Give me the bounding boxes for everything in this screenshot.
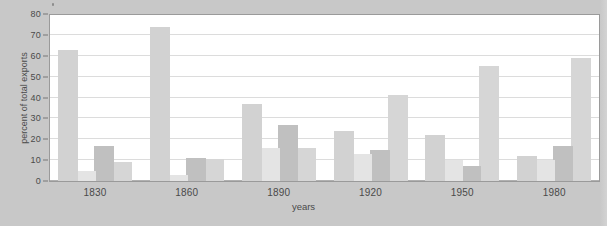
x-tick-label: 1980: [543, 187, 566, 198]
y-tick-label: 20: [31, 134, 41, 144]
bar: [388, 95, 408, 181]
bar: [186, 158, 206, 181]
x-tick-label: 1860: [175, 187, 198, 198]
bar: [571, 58, 591, 181]
chart-figure: 01020304050607080 percent of total expor…: [0, 0, 607, 226]
bar: [150, 27, 170, 181]
y-tick-mark: [43, 14, 48, 15]
x-axis-title: years: [0, 201, 607, 212]
y-tick-mark: [43, 55, 48, 56]
bar: [479, 66, 499, 181]
bar: [370, 150, 390, 181]
y-tick-label: 60: [31, 51, 41, 61]
x-tick-label: 1950: [451, 187, 474, 198]
bar: [517, 156, 537, 181]
y-tick-mark: [43, 97, 48, 98]
bar: [94, 146, 114, 181]
bar: [443, 160, 463, 181]
bar: [168, 175, 188, 181]
y-axis-title: percent of total exports: [19, 23, 29, 173]
y-tick-mark: [43, 139, 48, 140]
y-tick-mark: [43, 181, 48, 182]
y-tick-label: 40: [31, 93, 41, 103]
bar: [461, 166, 481, 181]
x-tick-label: 1920: [359, 187, 382, 198]
bar: [260, 148, 280, 181]
plot-area: [49, 14, 600, 182]
y-tick-mark: [43, 118, 48, 119]
bar: [425, 135, 445, 181]
y-tick-label: 80: [31, 9, 41, 19]
bar: [296, 148, 316, 181]
scan-edge-gradient: [600, 0, 607, 226]
bar: [553, 146, 573, 181]
bars-layer: [50, 15, 599, 181]
bar: [334, 131, 354, 181]
y-tick-mark: [43, 160, 48, 161]
bar: [242, 104, 262, 181]
scan-artifact-speck: [52, 3, 54, 6]
bar: [204, 159, 224, 181]
y-tick-label: 50: [31, 72, 41, 82]
x-tick-label: 1830: [83, 187, 106, 198]
y-tick-mark: [43, 76, 48, 77]
y-tick-label: 30: [31, 113, 41, 123]
y-axis-title-wrap: percent of total exports: [8, 14, 22, 182]
bar: [352, 154, 372, 181]
bar: [535, 160, 555, 181]
y-tick-label: 70: [31, 30, 41, 40]
y-tick-label: 10: [31, 155, 41, 165]
y-tick-label: 0: [36, 176, 41, 186]
bar: [278, 125, 298, 181]
bar: [112, 162, 132, 181]
bar: [58, 50, 78, 182]
bar: [76, 171, 96, 181]
x-tick-label: 1890: [267, 187, 290, 198]
y-tick-mark: [43, 34, 48, 35]
